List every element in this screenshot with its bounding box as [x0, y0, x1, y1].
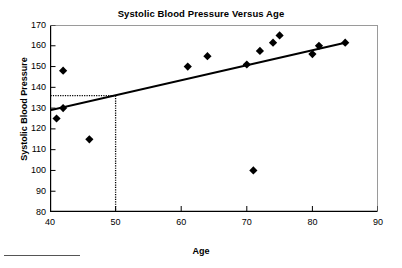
data-point: [85, 135, 93, 143]
y-tick-label: 150: [20, 62, 46, 71]
chart-figure: Systolic Blood Pressure Versus Age Systo…: [0, 0, 402, 268]
x-tick-label: 40: [37, 218, 63, 227]
data-point: [203, 52, 211, 60]
y-tick-label: 80: [20, 208, 46, 217]
data-point: [59, 104, 67, 112]
x-tick-label: 70: [234, 218, 260, 227]
data-point: [243, 60, 251, 68]
footer-divider: [4, 255, 80, 256]
data-point: [59, 67, 67, 75]
plot-svg: [50, 25, 378, 212]
data-point: [276, 31, 284, 39]
plot-area: [50, 25, 378, 212]
x-tick-label: 60: [168, 218, 194, 227]
data-point: [52, 114, 60, 122]
data-point: [184, 62, 192, 70]
chart-title: Systolic Blood Pressure Versus Age: [0, 8, 402, 19]
y-tick-label: 160: [20, 41, 46, 50]
data-point: [256, 47, 264, 55]
data-point: [341, 39, 349, 47]
y-tick-label: 170: [20, 21, 46, 30]
data-point: [269, 39, 277, 47]
y-tick-label: 130: [20, 104, 46, 113]
trendline: [50, 43, 345, 111]
x-tick-label: 50: [103, 218, 129, 227]
y-tick-label: 140: [20, 83, 46, 92]
y-tick-label: 100: [20, 166, 46, 175]
x-tick-label: 90: [365, 218, 391, 227]
y-tick-label: 90: [20, 187, 46, 196]
y-tick-label: 110: [20, 145, 46, 154]
x-tick-label: 80: [299, 218, 325, 227]
data-point: [249, 166, 257, 174]
y-tick-label: 120: [20, 124, 46, 133]
